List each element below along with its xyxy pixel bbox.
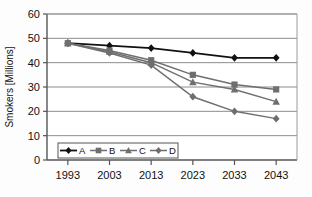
chart-legend[interactable]: ABCD <box>58 143 178 158</box>
legend-label-c: C <box>139 145 146 156</box>
x-tick-label: 2033 <box>222 169 246 181</box>
data-point-b-2043 <box>273 86 279 92</box>
x-tick-label: 2043 <box>264 169 288 181</box>
y-tick-label: 10 <box>28 130 40 142</box>
y-tick-label: 40 <box>28 57 40 69</box>
legend-label-b: B <box>109 145 115 156</box>
data-point-b-2023 <box>190 72 196 78</box>
y-axis-ticks: 0102030405060 <box>28 8 47 166</box>
y-tick-label: 0 <box>34 154 40 166</box>
line-chart: 0102030405060 199320032013202320332043 S… <box>0 0 312 197</box>
x-tick-label: 2013 <box>139 169 163 181</box>
legend-label-d: D <box>169 145 176 156</box>
x-tick-label: 1993 <box>56 169 80 181</box>
y-axis-title: Smokers [Millions] <box>4 46 15 127</box>
x-axis-ticks: 199320032013202320332043 <box>56 160 289 181</box>
x-tick-label: 2003 <box>97 169 121 181</box>
y-tick-label: 60 <box>28 8 40 20</box>
chart-container: 0102030405060 199320032013202320332043 S… <box>0 0 312 197</box>
legend-label-a: A <box>79 145 86 156</box>
legend-marker-b <box>96 148 102 154</box>
y-tick-label: 50 <box>28 32 40 44</box>
y-tick-label: 30 <box>28 81 40 93</box>
y-tick-label: 20 <box>28 105 40 117</box>
x-tick-label: 2023 <box>181 169 205 181</box>
